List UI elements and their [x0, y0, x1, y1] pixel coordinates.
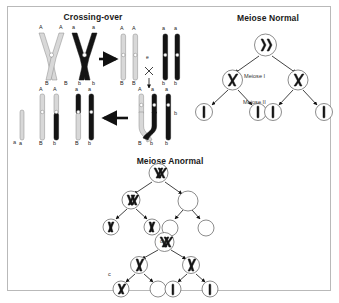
stage-label-meiose-i: Meiose I — [244, 73, 265, 79]
edge-label-a: a — [19, 141, 22, 146]
row1-label-top-3: a — [162, 26, 165, 31]
row2-chromatid-4 — [89, 94, 94, 140]
recomb-label-bottom-2: b — [150, 141, 153, 146]
row1-chromatid-4 — [175, 34, 180, 80]
row1-label-top-1: A — [120, 26, 124, 31]
stage-letter-e: e — [146, 55, 149, 60]
row2-label-bottom-3: B — [75, 141, 79, 146]
stage-label-meiose-ii: Meiose II — [243, 99, 266, 105]
row1-label-bottom-1: B — [120, 81, 124, 86]
row2-label-top-4: a — [88, 87, 91, 92]
row2-label-top-2: A — [53, 87, 57, 92]
allele-label-a-1: a — [72, 25, 75, 30]
row1-label-top-2: A — [132, 26, 136, 31]
row1-chromatid-1 — [121, 34, 126, 80]
biology-figure: Crossing-over Meiose Normal Meiose Anorm… — [0, 0, 339, 303]
row2-chromatid-2 — [54, 94, 59, 140]
recombinant-group — [139, 94, 171, 142]
row1-chromatid-3 — [163, 34, 168, 80]
recomb-label-top-3: a — [165, 87, 168, 92]
allele-label-A-1: A — [39, 25, 43, 30]
row2-chromatid-1 — [40, 94, 45, 140]
row2-chromatid-3 — [76, 94, 81, 140]
tetrad-dark-left — [72, 33, 97, 80]
tetrad-light-left — [39, 33, 64, 80]
allele-label-B-1: B — [45, 81, 49, 86]
allele-label-b-2: b — [92, 81, 95, 86]
row1-chromatid-2 — [133, 34, 138, 80]
allele-label-A-2: A — [59, 25, 63, 30]
row1-label-top-4: a — [174, 26, 177, 31]
edge-chromatid-left — [20, 110, 24, 140]
row1-label-bottom-2: B — [132, 81, 136, 86]
row2-label-bottom-4: b — [88, 141, 91, 146]
row2-label-bottom-2: b — [53, 141, 56, 146]
crossing-over-diagram — [0, 0, 339, 303]
allele-label-B-2: B — [64, 81, 68, 86]
allele-label-b-1: b — [78, 81, 81, 86]
row1-label-bottom-4: b — [174, 81, 177, 86]
connector-ou: ou — [160, 238, 166, 244]
crossover-x-symbol — [145, 67, 153, 88]
meiose-anormal-tree-top — [103, 164, 214, 237]
recomb-label-top-1: A — [138, 87, 142, 92]
row2-label-bottom-1: B — [39, 141, 43, 146]
row2-label-top-1: A — [39, 87, 43, 92]
row2-label-top-3: a — [75, 87, 78, 92]
allele-label-a-2: a — [92, 25, 95, 30]
recomb-label-bottom-3: b — [165, 141, 168, 146]
recomb-label-top-2: a — [151, 87, 154, 92]
recomb-label-bottom-1: B — [138, 141, 142, 146]
